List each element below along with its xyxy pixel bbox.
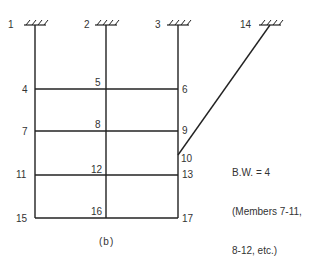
node-label-14: 14	[240, 20, 251, 30]
node-label-15: 15	[16, 214, 27, 224]
fixed-support-icon	[167, 20, 191, 25]
node-label-12: 12	[91, 165, 102, 175]
node-label-6: 6	[182, 85, 188, 95]
annotation-line-1: B.W. = 4	[232, 166, 302, 179]
fixed-support-icon	[259, 20, 283, 25]
node-label-16: 16	[91, 207, 102, 217]
node-label-10: 10	[181, 154, 192, 164]
node-label-1: 1	[8, 20, 14, 30]
figure-caption: (b)	[99, 236, 114, 247]
member-10-14	[178, 25, 270, 155]
annotation-line-3: 8-12, etc.)	[232, 244, 302, 257]
bandwidth-annotation: B.W. = 4 (Members 7-11, 8-12, etc.)	[232, 140, 302, 260]
node-label-2: 2	[84, 20, 90, 30]
node-label-7: 7	[22, 127, 28, 137]
node-label-11: 11	[16, 170, 26, 180]
annotation-line-2: (Members 7-11,	[232, 205, 302, 218]
node-label-4: 4	[22, 85, 28, 95]
node-label-8: 8	[95, 120, 101, 130]
node-label-17: 17	[182, 214, 193, 224]
node-label-5: 5	[95, 78, 101, 88]
node-label-3: 3	[155, 20, 161, 30]
node-label-9: 9	[182, 126, 188, 136]
fixed-support-icon	[24, 20, 48, 25]
fixed-support-icon	[95, 20, 119, 25]
node-label-13: 13	[182, 170, 193, 180]
